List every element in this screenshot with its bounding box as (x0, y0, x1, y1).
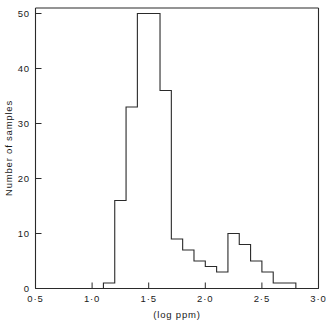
x-tick-label-1-5: 1·5 (140, 293, 156, 304)
histogram-figure: 0 10 20 30 40 50 0·5 1·0 1·5 2·0 2·5 3·0… (0, 0, 335, 324)
y-tick-label-20: 20 (18, 173, 30, 184)
y-axis-ticks (36, 14, 42, 289)
y-tick-label-40: 40 (18, 63, 30, 74)
x-axis-title: (log ppm) (153, 309, 200, 320)
y-tick-label-50: 50 (18, 8, 30, 19)
y-axis-tick-labels: 0 10 20 30 40 50 (18, 8, 30, 294)
x-tick-label-2-5: 2·5 (254, 293, 270, 304)
y-axis-title: Number of samples (3, 100, 14, 196)
x-tick-label-1-0: 1·0 (84, 293, 100, 304)
y-tick-label-30: 30 (18, 118, 30, 129)
histogram-outline (36, 14, 319, 289)
x-axis-tick-labels: 0·5 1·0 1·5 2·0 2·5 3·0 (27, 293, 326, 304)
y-tick-label-10: 10 (18, 228, 30, 239)
x-tick-label-3-0: 3·0 (310, 293, 326, 304)
chart-canvas: 0 10 20 30 40 50 0·5 1·0 1·5 2·0 2·5 3·0… (0, 0, 335, 324)
plot-frame (36, 8, 319, 289)
x-tick-label-0-5: 0·5 (27, 293, 43, 304)
x-tick-label-2-0: 2·0 (197, 293, 213, 304)
